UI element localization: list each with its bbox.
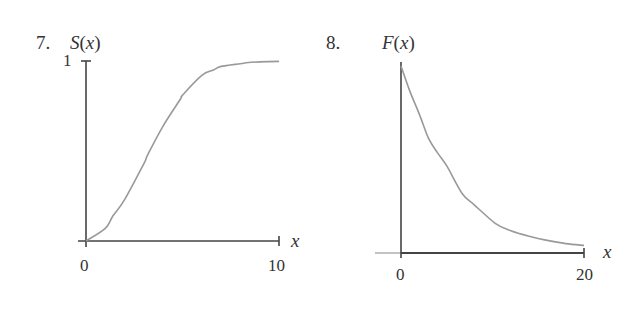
exponential-decay-curve (401, 66, 584, 245)
right-axes (375, 62, 584, 258)
charts-canvas (0, 0, 641, 312)
left-axes (78, 61, 279, 247)
sigmoid-curve (86, 61, 279, 241)
